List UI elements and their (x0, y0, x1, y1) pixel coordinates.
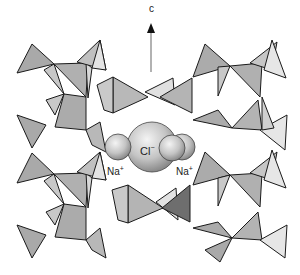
bottom-bowtie-tetrahedra (112, 185, 190, 223)
left-upper-tetrahedra (17, 40, 106, 152)
cl-charge: − (150, 144, 154, 151)
cl-ion-label: Cl− (140, 144, 154, 157)
na-right-charge: + (189, 165, 193, 172)
right-lower-tetrahedra (193, 150, 287, 262)
na-left-symbol: Na (107, 166, 120, 177)
na-ion-label-right: Na+ (176, 165, 193, 177)
right-upper-tetrahedra (193, 40, 287, 150)
top-bowtie-tetrahedra (97, 77, 192, 113)
na-ion-sphere-left (105, 134, 131, 160)
cl-symbol: Cl (140, 145, 150, 157)
na-ion-label-left: Na+ (107, 165, 124, 177)
crystal-structure-diagram (0, 0, 300, 275)
c-axis-label: c (149, 4, 154, 14)
na-right-symbol: Na (176, 166, 189, 177)
na-left-charge: + (120, 165, 124, 172)
na-ion-sphere-right-front (159, 135, 185, 161)
c-axis-arrow (147, 23, 155, 72)
left-lower-tetrahedra (17, 152, 106, 258)
